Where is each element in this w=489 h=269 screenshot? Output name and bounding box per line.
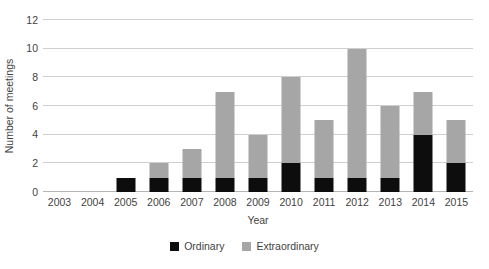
bar-segment-ordinary[interactable] bbox=[215, 178, 234, 192]
bar-segment-ordinary[interactable] bbox=[414, 135, 433, 192]
legend-swatch-icon bbox=[242, 242, 251, 251]
bar-segment-extraordinary[interactable] bbox=[248, 135, 267, 178]
x-tick-label: 2007 bbox=[175, 195, 208, 209]
bar-segment-extraordinary[interactable] bbox=[315, 120, 334, 177]
bar-segment-ordinary[interactable] bbox=[381, 178, 400, 192]
x-axis-title: Year bbox=[43, 214, 473, 226]
legend-item[interactable]: Ordinary bbox=[170, 241, 224, 252]
bar-slot bbox=[374, 20, 407, 192]
bar-stack[interactable] bbox=[381, 106, 400, 192]
legend-label: Ordinary bbox=[184, 241, 224, 252]
x-tick-label: 2015 bbox=[440, 195, 473, 209]
x-tick-label: 2010 bbox=[275, 195, 308, 209]
bar-segment-extraordinary[interactable] bbox=[414, 92, 433, 135]
bar-stack[interactable] bbox=[282, 77, 301, 192]
legend-swatch-icon bbox=[170, 242, 179, 251]
bar-chart: Number of meetings 024681012 20032004200… bbox=[0, 0, 489, 269]
bar-segment-ordinary[interactable] bbox=[315, 178, 334, 192]
chart-legend: OrdinaryExtraordinary bbox=[0, 241, 489, 252]
x-tick-label: 2014 bbox=[407, 195, 440, 209]
bar-segment-ordinary[interactable] bbox=[182, 178, 201, 192]
bar-segment-ordinary[interactable] bbox=[282, 163, 301, 192]
bar-stack[interactable] bbox=[315, 120, 334, 192]
bar-slot bbox=[341, 20, 374, 192]
bar-stack[interactable] bbox=[215, 92, 234, 192]
x-tick-label: 2009 bbox=[241, 195, 274, 209]
y-tick-label: 10 bbox=[4, 43, 38, 54]
bar-stack[interactable] bbox=[116, 178, 135, 192]
bar-segment-extraordinary[interactable] bbox=[282, 77, 301, 163]
y-axis-tick-labels: 024681012 bbox=[0, 20, 38, 192]
x-tick-label: 2012 bbox=[341, 195, 374, 209]
x-tick-label: 2005 bbox=[109, 195, 142, 209]
bar-segment-extraordinary[interactable] bbox=[348, 49, 367, 178]
x-tick-label: 2011 bbox=[308, 195, 341, 209]
legend-item[interactable]: Extraordinary bbox=[242, 241, 318, 252]
bar-segment-ordinary[interactable] bbox=[447, 163, 466, 192]
x-tick-label: 2004 bbox=[76, 195, 109, 209]
y-tick-label: 8 bbox=[4, 72, 38, 83]
bar-slot bbox=[109, 20, 142, 192]
bar-segment-extraordinary[interactable] bbox=[381, 106, 400, 178]
x-tick-label: 2003 bbox=[43, 195, 76, 209]
bar-segment-extraordinary[interactable] bbox=[215, 92, 234, 178]
y-tick-label: 6 bbox=[4, 101, 38, 112]
x-axis-tick-labels: 2003200420052006200720082009201020112012… bbox=[43, 195, 473, 209]
bar-segment-extraordinary[interactable] bbox=[149, 163, 168, 177]
bar-segment-ordinary[interactable] bbox=[248, 178, 267, 192]
x-tick-label: 2013 bbox=[374, 195, 407, 209]
bar-segment-ordinary[interactable] bbox=[116, 178, 135, 192]
y-tick-label: 4 bbox=[4, 129, 38, 140]
bar-segment-ordinary[interactable] bbox=[149, 178, 168, 192]
bar-slot bbox=[175, 20, 208, 192]
bar-stack[interactable] bbox=[348, 49, 367, 192]
bar-slot bbox=[308, 20, 341, 192]
bar-slot bbox=[43, 20, 76, 192]
bar-segment-extraordinary[interactable] bbox=[447, 120, 466, 163]
bar-slot bbox=[208, 20, 241, 192]
bar-segment-ordinary[interactable] bbox=[348, 178, 367, 192]
x-tick-label: 2006 bbox=[142, 195, 175, 209]
x-axis-title-label: Year bbox=[247, 214, 268, 226]
bar-stack[interactable] bbox=[447, 120, 466, 192]
bar-slot bbox=[407, 20, 440, 192]
bar-slot bbox=[241, 20, 274, 192]
y-tick-label: 2 bbox=[4, 158, 38, 169]
bar-stack[interactable] bbox=[149, 163, 168, 192]
bar-slot bbox=[440, 20, 473, 192]
bar-stack[interactable] bbox=[248, 135, 267, 192]
bar-stack[interactable] bbox=[182, 149, 201, 192]
bar-slot bbox=[275, 20, 308, 192]
legend-label: Extraordinary bbox=[256, 241, 318, 252]
bar-slot bbox=[76, 20, 109, 192]
bar-segment-extraordinary[interactable] bbox=[182, 149, 201, 178]
y-tick-label: 12 bbox=[4, 15, 38, 26]
bar-stack[interactable] bbox=[414, 92, 433, 192]
y-tick-label: 0 bbox=[4, 187, 38, 198]
x-tick-label: 2008 bbox=[208, 195, 241, 209]
bars-layer bbox=[43, 20, 473, 192]
bar-slot bbox=[142, 20, 175, 192]
